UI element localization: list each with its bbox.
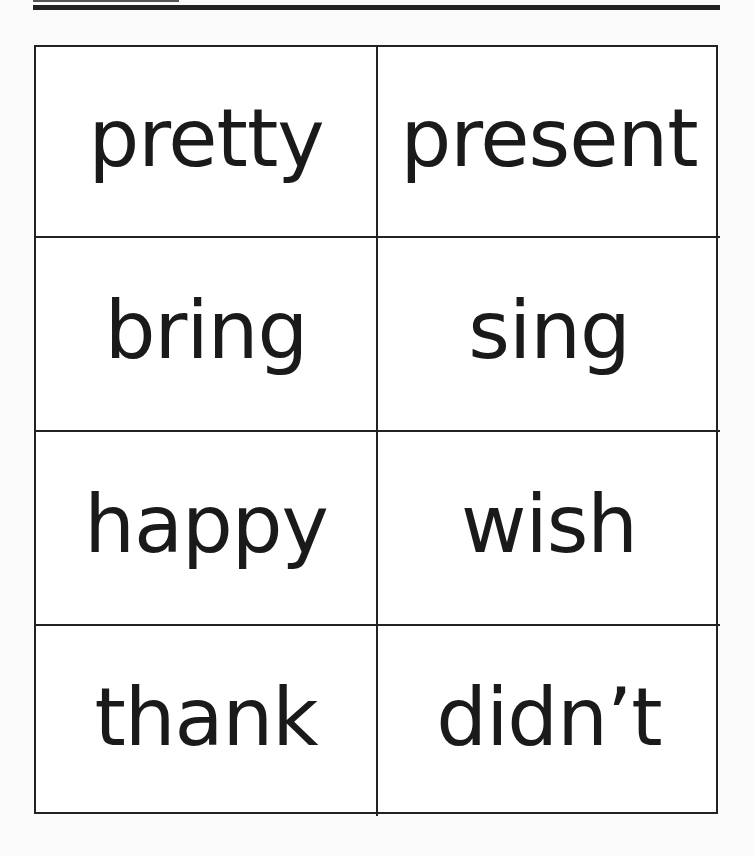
card-word: present xyxy=(400,99,697,185)
flash-card: happy xyxy=(36,432,378,626)
flash-card: present xyxy=(378,47,720,238)
flash-card-grid: pretty present bring sing happy wish tha… xyxy=(34,45,718,814)
card-word: pretty xyxy=(88,99,323,185)
card-word: happy xyxy=(84,485,328,571)
card-word: bring xyxy=(105,291,307,377)
flash-card: thank xyxy=(36,626,378,816)
top-thin-rule xyxy=(33,0,179,2)
flash-card: pretty xyxy=(36,47,378,238)
flash-card: sing xyxy=(378,238,720,432)
top-heading-bar xyxy=(33,5,720,10)
card-word: didn’t xyxy=(436,678,661,764)
flash-card: didn’t xyxy=(378,626,720,816)
flash-card: wish xyxy=(378,432,720,626)
card-word: wish xyxy=(461,485,637,571)
flash-card: bring xyxy=(36,238,378,432)
card-word: thank xyxy=(94,678,317,764)
card-word: sing xyxy=(468,291,629,377)
